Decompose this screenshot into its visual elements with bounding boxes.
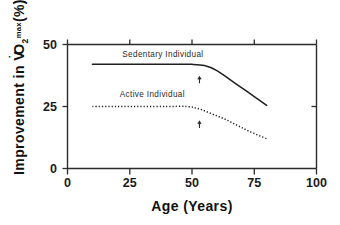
series-label-active: Active Individual <box>120 90 185 99</box>
y-tick-label-50: 50 <box>43 38 57 52</box>
x-tick-label-75: 75 <box>247 176 261 190</box>
y-tick-label-0: 0 <box>50 162 57 176</box>
top-axis-ticks <box>68 40 317 45</box>
x-axis-tick-labels: 0 25 50 75 100 <box>64 176 327 190</box>
y-axis-tick-labels: 50 25 0 <box>43 38 57 176</box>
active-arrow-icon <box>198 121 201 128</box>
y-axis-ticks <box>63 45 68 169</box>
x-axis-ticks <box>68 169 317 175</box>
x-tick-label-0: 0 <box>64 176 71 190</box>
chart-svg: Improvement in V˙O2max(%) 50 25 0 <box>0 0 340 225</box>
sedentary-arrow-icon <box>198 77 201 84</box>
series-line-active <box>92 106 266 138</box>
x-axis-title: Age (Years) <box>151 198 232 214</box>
series-labels: Sedentary Individual Active Individual <box>120 50 204 99</box>
series-line-sedentary <box>92 64 266 105</box>
data-series-group <box>92 64 266 138</box>
chart-figure: Improvement in V˙O2max(%) 50 25 0 <box>0 0 340 225</box>
series-label-sedentary: Sedentary Individual <box>122 50 203 59</box>
y-axis-title-sup: max <box>14 22 23 39</box>
y-axis-title-o: O <box>11 43 27 54</box>
annotation-arrows <box>198 77 201 128</box>
y-axis-title-tail: (%) <box>11 0 27 22</box>
y-axis-title: Improvement in V˙O2max(%) <box>7 0 30 175</box>
x-tick-label-50: 50 <box>185 176 199 190</box>
y-axis-title-lead: Improvement in V <box>11 51 27 175</box>
x-tick-label-100: 100 <box>306 176 327 190</box>
y-tick-label-25: 25 <box>43 100 57 114</box>
svg-text:Improvement in V˙O2max(%): Improvement in V˙O2max(%) <box>7 0 30 175</box>
x-tick-label-25: 25 <box>123 176 137 190</box>
